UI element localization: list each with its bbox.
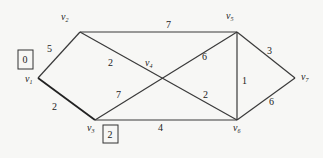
vertex-label-v2: v2 xyxy=(61,11,68,23)
weight-v1-v3: 2 xyxy=(52,101,57,112)
vertex-label-v6: v6 xyxy=(233,122,240,134)
weight-v4-v6: 2 xyxy=(203,89,208,100)
edge-v1-v3 xyxy=(38,78,95,120)
vertex-label-v5: v5 xyxy=(226,10,233,22)
distance-value-v1: 0 xyxy=(23,54,28,65)
graph-diagram: 5 7 2 2 2 7 6 4 1 3 6 v1 v2 v3 v4 v5 v6 … xyxy=(0,0,323,158)
distance-value-v3: 2 xyxy=(108,129,113,140)
weight-v5-v7: 3 xyxy=(267,45,272,56)
weight-v7-v6: 6 xyxy=(269,96,274,107)
vertex-label-v1: v1 xyxy=(25,73,32,85)
vertex-label-v7: v7 xyxy=(301,71,309,83)
vertex-label-v4: v4 xyxy=(145,57,152,69)
weight-v4-v5: 6 xyxy=(202,51,207,62)
edge-v5-v7 xyxy=(237,32,295,78)
edge-v2-v6 xyxy=(80,32,237,120)
edge-v1-v2 xyxy=(38,32,80,78)
vertex-label-v3: v3 xyxy=(87,122,94,134)
weight-v3-v6: 4 xyxy=(158,122,163,133)
weight-v5-v6: 1 xyxy=(242,75,247,86)
weight-v1-v2: 5 xyxy=(47,43,52,54)
edge-v3-v5 xyxy=(95,32,237,120)
weight-v3-v4: 7 xyxy=(116,89,121,100)
weight-v2-v4: 2 xyxy=(108,57,113,68)
weight-v2-v5: 7 xyxy=(166,19,171,30)
